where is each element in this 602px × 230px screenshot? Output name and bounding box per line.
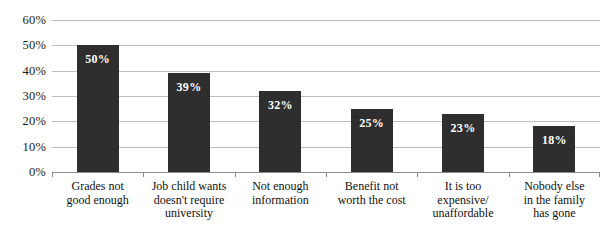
y-axis-tick-label: 10% (22, 139, 46, 154)
y-axis-tick-label: 20% (22, 114, 46, 129)
plot-area: 50%39%32%25%23%18% (52, 20, 600, 172)
x-axis-tick (326, 173, 327, 177)
bar[interactable]: 23% (442, 114, 484, 172)
x-axis: Grades not good enoughJob child wants do… (52, 173, 600, 230)
bar-value-label: 39% (168, 80, 210, 95)
y-axis-tick-label: 40% (22, 63, 46, 78)
x-axis-tick (52, 173, 53, 177)
bar[interactable]: 18% (533, 126, 575, 172)
bar-value-label: 25% (351, 116, 393, 131)
x-axis-category-label: Not enough information (235, 180, 326, 207)
bar[interactable]: 39% (168, 73, 210, 172)
bar[interactable]: 25% (351, 109, 393, 172)
bar[interactable]: 50% (77, 45, 119, 172)
x-axis-category-label: Grades not good enough (52, 180, 143, 207)
bars-group: 50%39%32%25%23%18% (52, 20, 600, 172)
y-axis: 0%10%20%30%40%50%60% (0, 0, 52, 230)
bar-value-label: 18% (533, 133, 575, 148)
x-axis-category-label: Nobody else in the family has gone (509, 180, 600, 221)
y-axis-tick-label: 0% (29, 165, 46, 180)
y-axis-tick-label: 60% (22, 13, 46, 28)
x-axis-category-label: Job child wants doesn't require universi… (143, 180, 234, 221)
bar-value-label: 32% (259, 98, 301, 113)
x-axis-tick (599, 173, 600, 177)
x-axis-tick (235, 173, 236, 177)
x-axis-tick (417, 173, 418, 177)
x-axis-tick (143, 173, 144, 177)
y-axis-tick-label: 50% (22, 38, 46, 53)
bar[interactable]: 32% (259, 91, 301, 172)
y-axis-tick-label: 30% (22, 89, 46, 104)
bar-chart: 0%10%20%30%40%50%60% 50%39%32%25%23%18% … (0, 0, 602, 230)
bar-value-label: 23% (442, 121, 484, 136)
bar-value-label: 50% (77, 52, 119, 67)
x-axis-tick (509, 173, 510, 177)
x-axis-category-label: Benefit not worth the cost (326, 180, 417, 207)
x-axis-category-label: It is too expensive/ unaffordable (417, 180, 508, 221)
